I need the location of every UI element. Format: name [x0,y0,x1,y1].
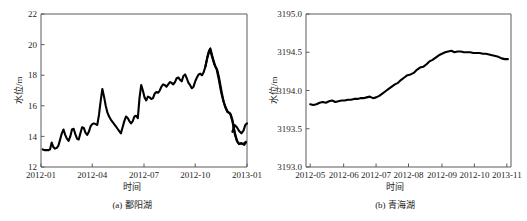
plot-frame [306,14,511,167]
x-tick-label: 2012-07 [361,170,391,180]
x-tick-label: 2012-06 [329,170,359,180]
y-tick-label: 3195.0 [277,9,302,19]
x-tick-label: 2013-11 [492,170,522,180]
chart-panel-qinghai: 3193.03193.53194.03194.53195.02012-05201… [263,0,527,221]
x-axis-title-b: 时间 [263,180,527,193]
data-series-line [205,49,246,144]
y-tick-label: 14 [28,132,38,142]
qinghai-plot-svg: 3193.03193.53194.03194.53195.02012-05201… [263,0,527,195]
y-axis-title-a: 水位/m [12,76,25,104]
y-tick-label: 18 [28,70,38,80]
data-series-line [310,51,508,105]
x-tick-label: 2012-05 [295,170,325,180]
x-tick-label: 2012-09 [427,170,457,180]
y-tick-label: 22 [28,9,37,19]
x-tick-label: 2012-07 [129,170,159,180]
y-tick-label: 3194.0 [277,86,302,96]
x-tick-label: 2012-10 [459,170,489,180]
figure-container: 1214161820222012-012012-042012-072012-10… [0,0,527,221]
plot-frame [41,14,247,167]
x-tick-label: 2012-10 [180,170,210,180]
panel-caption-b: (b) 青海湖 [263,198,527,211]
chart-panel-poyang: 1214161820222012-012012-042012-072012-10… [0,0,264,221]
y-tick-label: 3193.5 [277,124,302,134]
y-tick-label: 16 [28,101,38,111]
y-axis-title-b: 水位/m [267,76,280,104]
y-tick-label: 20 [28,40,38,50]
x-tick-label: 2012-08 [394,170,424,180]
x-axis-title-a: 时间 [0,180,264,193]
x-tick-label: 2012-01 [26,170,56,180]
y-tick-label: 3194.5 [277,47,302,57]
x-tick-label: 2013-01 [232,170,262,180]
x-tick-label: 2012-04 [77,170,107,180]
data-series-line [43,48,246,150]
poyang-plot-svg: 1214161820222012-012012-042012-072012-10… [0,0,264,195]
panel-caption-a: (a) 鄱阳湖 [0,198,264,211]
